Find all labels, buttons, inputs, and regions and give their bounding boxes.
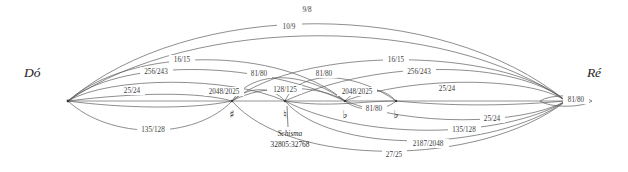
arc-fan-left-1 [68,101,232,107]
schisma-label: Schisma [278,129,303,138]
arc-25-24-left [68,82,285,101]
ratio-label-10-9: 10/9 [283,23,296,31]
ratio-label-81-80-a: 81/80 [251,70,268,78]
ratio-label-9-8: 9/8 [302,6,312,14]
arc-connector-mid [285,101,396,104]
note-label-do: Dó [23,65,41,80]
node-natural [284,100,286,102]
ratio-label-16-15-left: 16/15 [174,56,191,64]
ratio-label-256-243-right: 256/243 [407,68,431,76]
ratio-label-25-24-right: 25/24 [439,85,456,93]
interval-diagram-canvas: Dó Ré ♯ ♮ ♭ ♭ 9/8 10/9 16/15 16/15 256/2… [0,0,628,172]
ratio-label-135-128-right: 135/128 [452,126,476,134]
accidental-flat-2-icon: ♭ [393,108,398,121]
interval-diagram: Dó Ré ♯ ♮ ♭ ♭ 9/8 10/9 16/15 16/15 256/2… [0,0,628,172]
accidental-sharp-icon: ♯ [229,108,234,121]
ratio-label-16-15-right: 16/15 [388,56,405,64]
node-flat-1 [344,100,346,102]
arc-2187-2048 [285,101,566,141]
ratio-label-256-243-left: 256/243 [144,68,168,76]
arc-16-15-right [232,60,566,101]
ratio-label-135-128-left: 135/128 [141,126,165,134]
node-do [67,100,70,103]
ratio-label-81-80-b: 81/80 [316,70,333,78]
note-label-re: Ré [586,65,602,80]
ratio-label-27-25: 27/25 [386,151,403,159]
node-flat-2 [395,100,397,102]
ratio-label-25-24-left: 25/24 [124,87,141,95]
node-sharp [231,100,233,102]
ratio-label-2187-2048: 2187/2048 [413,140,444,148]
ratio-label-2048-2025-right: 2048/2025 [342,88,373,96]
accidental-natural-icon: ♮ [283,108,287,121]
ratio-label-128-125: 128/125 [273,86,297,94]
ratio-label-81-80-far-right: 81/80 [568,96,585,104]
ratio-label-2048-2025-left: 2048/2025 [209,88,240,96]
ratio-label-25-24-lower-right: 25/24 [484,115,501,123]
accidental-flat-1-icon: ♭ [342,108,347,121]
schisma-ratio-label: 32805:32768 [270,140,309,149]
ratio-label-81-80-lower: 81/80 [366,105,383,113]
schisma-leader-line [287,106,288,127]
